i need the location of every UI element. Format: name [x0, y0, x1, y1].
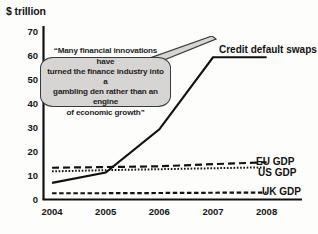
quote-callout-text: “Many financial innovations haveturned t…: [46, 46, 165, 117]
series-line-us-gdp: [52, 167, 267, 171]
series-label-credit-default-swaps: Credit default swaps: [219, 44, 317, 55]
series-label-us-gdp: US GDP: [258, 167, 296, 178]
series-line-uk-gdp: [52, 193, 267, 194]
chart-container: $ trillion 010203040506070 2004200520062…: [0, 0, 318, 234]
series-label-uk-gdp: UK GDP: [262, 186, 301, 197]
quote-callout: “Many financial innovations haveturned t…: [40, 57, 171, 107]
series-label-eu-gdp: EU GDP: [256, 156, 294, 167]
